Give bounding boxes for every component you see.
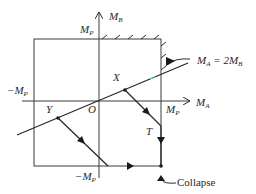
axis-label-mb: MB [108, 10, 123, 24]
yield-boundary [34, 39, 161, 166]
interaction-diagram: MB MP MA MP −MP −MP O X Y T MA = 2MB Col… [0, 0, 256, 194]
path-x-to-t [125, 90, 161, 126]
point-x-label: X [112, 71, 121, 83]
label-mp-left: −MP [7, 84, 29, 98]
load-line [17, 63, 188, 135]
label-mp-top: MP [79, 23, 94, 37]
axis-label-ma: MA [195, 96, 210, 110]
load-line-label: MA = 2MB [196, 54, 243, 68]
label-mp-bottom: −MP [75, 170, 97, 184]
collapse-label: Collapse [177, 176, 216, 188]
fixed-boundary-hatching [102, 35, 166, 70]
collapse-point [159, 164, 163, 168]
point-t-label: T [146, 125, 153, 137]
arrow-head-bottom [127, 162, 134, 170]
arrow-head-t [157, 137, 165, 144]
label-mp-right: MP [165, 103, 180, 117]
load-line-pointer-head [166, 57, 175, 66]
point-y-label: Y [46, 103, 54, 115]
origin-label: O [88, 103, 96, 115]
collapse-pointer-head [157, 175, 165, 181]
